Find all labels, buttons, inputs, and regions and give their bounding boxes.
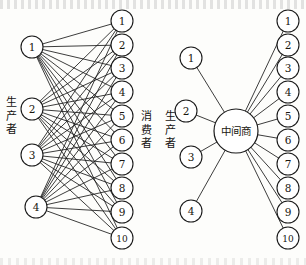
node-number: 10 [282, 234, 294, 244]
link-L4-R5 [44, 124, 115, 199]
vertical-label-char: 者 [140, 137, 153, 151]
consumer-node-right-2: 2 [277, 34, 299, 56]
label-producer-right: 生产者 [164, 110, 177, 151]
consumer-node-right-7: 7 [277, 153, 299, 175]
producer-node-3: 3 [21, 144, 43, 166]
node-number: 6 [285, 134, 292, 146]
node-number: 3 [285, 62, 292, 74]
consumer-node-5: 5 [111, 105, 133, 127]
label-consumer-left: 消费者 [140, 110, 153, 151]
node-number: 5 [285, 110, 292, 122]
node-number: 4 [188, 205, 195, 217]
consumer-node-right-6: 6 [277, 129, 299, 151]
link-L1-R2 [43, 45, 111, 47]
link-L4-R10 [46, 211, 111, 235]
vertical-label-char: 产 [164, 124, 177, 138]
vertical-label-char: 者 [5, 123, 18, 137]
node-number: 7 [119, 158, 126, 170]
link-L3-R1 [38, 30, 116, 146]
distribution-channel-figure: 123412345678910 123412345678910 中间商 [0, 0, 306, 265]
link-P2-hub [196, 115, 215, 123]
consumer-node-right-10: 10 [277, 227, 299, 249]
node-number: 9 [285, 206, 292, 218]
vertical-label-char: 费 [140, 124, 153, 138]
consumer-node-right-1: 1 [277, 10, 299, 32]
node-number: 8 [119, 182, 126, 194]
consumer-node-1: 1 [111, 10, 133, 32]
link-hub-C5 [257, 119, 277, 125]
vertical-label-char: 生 [164, 110, 177, 124]
consumer-node-right-8: 8 [277, 177, 299, 199]
vertical-label-char: 生 [5, 96, 18, 110]
link-L3-R7 [43, 156, 111, 163]
producer-node-right-1: 1 [180, 47, 202, 69]
node-number: 3 [29, 149, 36, 161]
consumer-node-7: 7 [111, 153, 133, 175]
node-number: 6 [119, 134, 126, 146]
consumer-node-2: 2 [111, 34, 133, 56]
link-L2-R1 [40, 29, 114, 102]
link-hub-C2 [247, 54, 282, 112]
consumer-node-right-4: 4 [277, 81, 299, 103]
middleman-hub: 中间商 [214, 109, 258, 153]
node-number: 9 [119, 206, 126, 218]
producer-node-right-2: 2 [175, 100, 197, 122]
node-number: 2 [183, 105, 190, 117]
node-number: 4 [119, 86, 126, 98]
node-number: 2 [285, 39, 292, 51]
link-L4-R4 [43, 101, 116, 198]
consumer-node-right-5: 5 [277, 105, 299, 127]
consumer-node-8: 8 [111, 177, 133, 199]
consumer-node-6: 6 [111, 129, 133, 151]
consumer-node-4: 4 [111, 81, 133, 103]
link-L3-R2 [39, 54, 115, 147]
link-L2-R5 [43, 110, 111, 115]
link-L4-R8 [47, 190, 112, 204]
consumer-node-right-9: 9 [277, 201, 299, 223]
node-number: 10 [116, 234, 128, 244]
node-number: 7 [285, 158, 292, 170]
link-hub-C6 [258, 135, 277, 138]
vertical-label-char: 者 [164, 137, 177, 151]
consumer-node-10: 10 [111, 227, 133, 249]
producer-node-1: 1 [21, 36, 43, 58]
producer-node-2: 2 [21, 98, 43, 120]
middleman-label: 中间商 [221, 125, 251, 137]
link-hub-C4 [254, 99, 280, 118]
link-P1-hub [197, 67, 225, 112]
consumer-node-9: 9 [111, 201, 133, 223]
node-number: 8 [285, 182, 292, 194]
node-number: 1 [119, 15, 126, 27]
consumer-node-3: 3 [111, 57, 133, 79]
node-number: 1 [188, 52, 195, 64]
producer-node-right-3: 3 [180, 146, 202, 168]
node-number: 2 [119, 39, 126, 51]
node-number: 1 [285, 15, 292, 27]
node-number: 2 [29, 103, 36, 115]
consumer-node-right-3: 3 [277, 57, 299, 79]
vertical-label-char: 产 [5, 110, 18, 124]
node-number: 4 [285, 86, 292, 98]
producer-node-right-4: 4 [180, 200, 202, 222]
vertical-label-char: 消 [140, 110, 153, 124]
link-hub-C8 [251, 147, 281, 180]
node-number: 3 [119, 62, 126, 74]
node-number: 1 [29, 41, 36, 53]
link-P3-hub [201, 142, 217, 151]
left-diagram-links [37, 24, 118, 234]
node-number: 4 [33, 201, 40, 213]
node-number: 3 [188, 151, 195, 163]
producer-node-4: 4 [25, 196, 47, 218]
label-producer-left: 生产者 [5, 96, 18, 137]
node-number: 5 [119, 110, 126, 122]
